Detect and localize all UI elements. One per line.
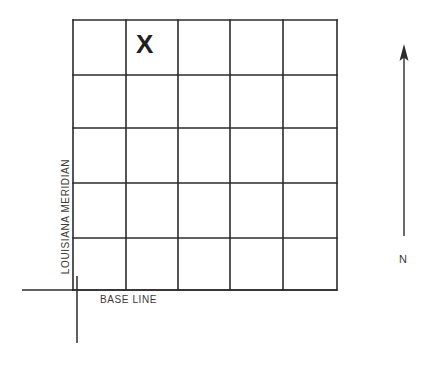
township-grid [73, 20, 337, 290]
north-arrow-icon [400, 44, 409, 236]
base-line-label: BASE LINE [100, 294, 157, 305]
north-direction-label: N [399, 253, 407, 265]
township-location-mark: X [136, 31, 153, 57]
diagram-canvas: X BASE LINE LOUISIANA MERIDIAN N [0, 0, 435, 369]
louisiana-meridian-label: LOUISIANA MERIDIAN [60, 151, 71, 283]
